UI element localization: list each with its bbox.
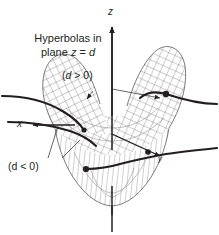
saddle-surface-figure: Hyperbolas in plane z = d (d > 0) (d < 0… [0, 0, 219, 235]
caption-line-2-prefix: plane [41, 46, 71, 58]
paren-close: ) [89, 69, 93, 81]
d-relation: > 0 [71, 69, 89, 81]
caption-line-1: Hyperbolas in [34, 32, 101, 44]
axis-label-x: x [17, 118, 22, 131]
axis-label-z: z [108, 6, 113, 19]
label-d-negative: (d < 0) [8, 160, 39, 173]
surface-right-lobe [112, 47, 186, 134]
label-d-negative-text: (d < 0) [8, 160, 39, 172]
figure-caption: Hyperbolas in plane z = d [20, 32, 116, 60]
caption-variable-d: d [89, 46, 95, 58]
label-d-positive: (d > 0) [62, 69, 93, 82]
axis-label-y: y [158, 154, 162, 164]
caption-equals: = [76, 46, 89, 58]
